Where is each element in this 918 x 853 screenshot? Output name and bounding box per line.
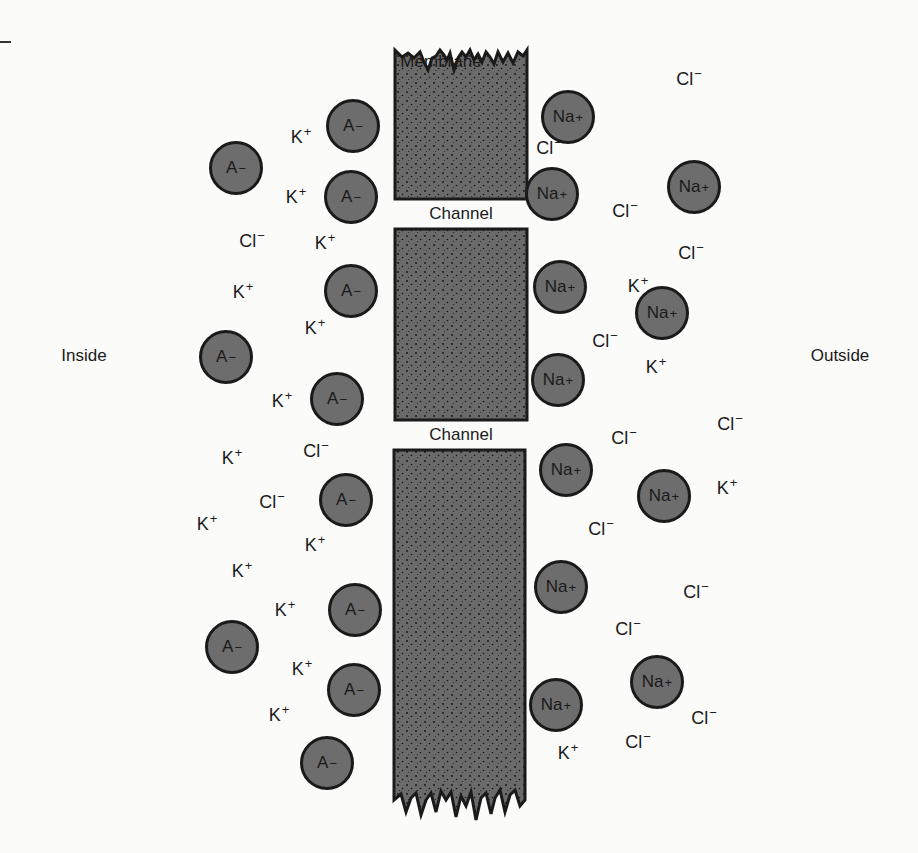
ion-charge: + [665,675,673,690]
anion-ball: A− [199,330,253,384]
potassium-ion-label: K+ [232,558,253,582]
ion-charge: + [304,124,312,139]
anion-ball: A− [310,372,364,426]
ion-charge: − [257,228,265,243]
ion-charge: − [735,411,743,426]
ion-symbol: Na [553,107,575,127]
ion-charge: + [670,306,678,321]
sodium-ion-ball: Na+ [525,167,579,221]
potassium-ion-label: K+ [222,445,243,469]
membrane-block-middle [395,229,527,420]
ion-charge: + [235,445,243,460]
ion-symbol: K [558,743,570,763]
potassium-ion-label: K+ [272,388,293,412]
ion-charge: − [629,425,637,440]
anion-ball: A− [324,170,378,224]
ion-distribution-diagram: Membrane Channel Channel Inside Outside … [0,0,918,853]
chloride-ion-label: Cl− [615,616,641,640]
ion-symbol: A [317,753,328,773]
ion-symbol: K [305,318,317,338]
ion-symbol: Cl [592,331,609,351]
ion-charge: + [702,180,710,195]
ion-charge: + [569,580,577,595]
ion-charge: − [630,198,638,213]
ion-symbol: Na [551,460,573,480]
ion-symbol: K [291,127,303,147]
ion-symbol: Cl [259,492,276,512]
chloride-ion-label: Cl− [612,198,638,222]
ion-symbol: Cl [625,732,642,752]
chloride-ion-label: Cl− [611,425,637,449]
potassium-ion-label: K+ [286,184,307,208]
chloride-ion-label: Cl− [303,438,329,462]
ion-charge: + [318,532,326,547]
ion-charge: − [353,284,361,299]
ion-symbol: A [327,389,338,409]
potassium-ion-label: K+ [275,597,296,621]
ion-symbol: K [275,600,287,620]
sodium-ion-ball: Na+ [637,469,691,523]
anion-ball: A− [319,473,373,527]
anion-ball: A− [300,736,354,790]
potassium-ion-label: K+ [269,702,290,726]
potassium-ion-label: K+ [305,532,326,556]
ion-symbol: Cl [536,138,553,158]
ion-charge: − [355,119,363,134]
potassium-ion-label: K+ [315,230,336,254]
ion-charge: − [321,438,329,453]
ion-symbol: A [343,116,354,136]
ion-symbol: A [336,490,347,510]
ion-symbol: Cl [615,619,632,639]
sodium-ion-ball: Na+ [533,260,587,314]
ion-symbol: Cl [678,243,695,263]
ion-charge: + [299,184,307,199]
ion-charge: − [633,616,641,631]
sodium-ion-ball: Na+ [531,353,585,407]
anion-ball: A− [205,620,259,674]
ion-charge: + [285,388,293,403]
ion-symbol: K [717,478,729,498]
chloride-ion-label: Cl− [625,729,651,753]
chloride-ion-label: Cl− [239,228,265,252]
channel-label-2: Channel [429,425,492,445]
ion-symbol: K [269,705,281,725]
chloride-ion-label: Cl− [691,705,717,729]
ion-charge: − [329,756,337,771]
membrane-block-bottom [394,450,525,820]
ion-charge: − [606,516,614,531]
ion-charge: − [696,240,704,255]
anion-ball: A− [328,583,382,637]
ion-symbol: K [222,448,234,468]
ion-symbol: Cl [612,201,629,221]
ion-charge: + [288,597,296,612]
ion-symbol: Na [537,184,559,204]
sodium-ion-ball: Na+ [539,443,593,497]
potassium-ion-label: K+ [233,279,254,303]
ion-charge: − [694,66,702,81]
ion-symbol: A [341,281,352,301]
chloride-ion-label: Cl− [683,579,709,603]
ion-charge: + [560,187,568,202]
ion-symbol: Na [543,370,565,390]
ion-symbol: A [345,600,356,620]
ion-symbol: Na [642,672,664,692]
ion-symbol: K [232,561,244,581]
membrane-label: Membrane [400,52,481,72]
ion-charge: − [277,489,285,504]
chloride-ion-label: Cl− [536,135,562,159]
ion-charge: − [234,640,242,655]
ion-symbol: Na [545,277,567,297]
ion-symbol: K [305,535,317,555]
ion-charge: + [245,558,253,573]
ion-symbol: A [344,680,355,700]
sodium-ion-ball: Na+ [667,160,721,214]
ion-symbol: K [272,391,284,411]
chloride-ion-label: Cl− [678,240,704,264]
ion-charge: − [356,683,364,698]
ion-charge: − [709,705,717,720]
ion-symbol: Cl [303,441,320,461]
outside-label: Outside [811,346,870,366]
ion-charge: − [701,579,709,594]
ion-symbol: Cl [683,582,700,602]
ion-charge: + [328,230,336,245]
